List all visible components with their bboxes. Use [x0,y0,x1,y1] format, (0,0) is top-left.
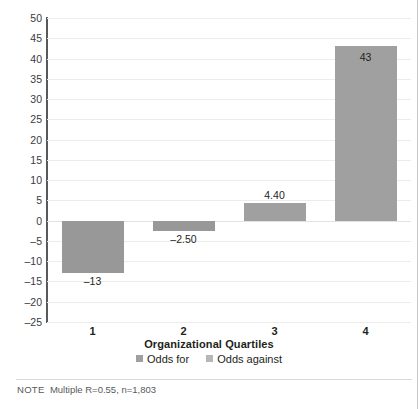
legend-label: Odds for [147,353,189,365]
y-axis-tick-label: 50 [0,12,42,24]
y-axis-tick-label: 5 [0,194,42,206]
chart-note: NOTE Multiple R=0.55, n=1,803 [17,384,156,395]
note-divider [16,379,412,380]
gridline [47,322,411,323]
y-axis-tick-label: 15 [0,154,42,166]
legend-swatch-icon [206,355,213,362]
y-axis-tick-label: –5 [0,235,42,247]
y-axis-tick-label: –20 [0,296,42,308]
bar-value-label: 43 [360,51,372,63]
legend-swatch-icon [136,355,143,362]
y-axis-tick-label: 20 [0,134,42,146]
note-text: Multiple R=0.55, n=1,803 [50,384,156,395]
y-axis-tick-label: –15 [0,275,42,287]
y-axis-tick-labels: 50454035302520151050–5–10–15–20–25 [0,18,42,322]
bar-series: –13–2.504.4043 [47,18,411,322]
x-axis-title: Organizational Quartiles [0,338,418,350]
plot-area: –13–2.504.4043 [47,18,411,322]
bar[interactable] [62,221,124,274]
bar-value-label: 4.40 [264,189,284,201]
x-axis-category-label: 1 [89,325,95,337]
y-axis-tick-label: –25 [0,316,42,328]
y-axis-tick-label: 25 [0,113,42,125]
bar[interactable] [153,221,215,231]
y-axis-tick-label: 30 [0,93,42,105]
bar[interactable] [335,46,397,220]
bar[interactable] [244,203,306,221]
y-axis-tick-label: 10 [0,174,42,186]
legend-item-odds-for[interactable]: Odds for [136,353,189,365]
x-axis-category-label: 3 [271,325,277,337]
y-axis-tick-label: 35 [0,73,42,85]
chart-figure: 50454035302520151050–5–10–15–20–25 –13–2… [0,0,418,409]
y-axis-tick-label: 45 [0,32,42,44]
x-axis-category-label: 4 [362,325,368,337]
y-axis-tick-label: –10 [0,255,42,267]
note-keyword: NOTE [17,384,45,395]
legend-item-odds-against[interactable]: Odds against [206,353,282,365]
bar-value-label: –13 [84,275,102,287]
chart-legend: Odds for Odds against [0,353,418,365]
x-axis-category-label: 2 [180,325,186,337]
y-axis-tick-label: 0 [0,215,42,227]
bar-value-label: –2.50 [170,233,196,245]
legend-label: Odds against [217,353,282,365]
y-axis-tick-label: 40 [0,53,42,65]
